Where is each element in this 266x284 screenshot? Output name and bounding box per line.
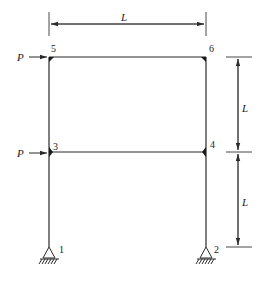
frame-diagram: L L L P P 5 6 3 4 1 2 (0, 0, 266, 284)
support-1 (39, 247, 59, 264)
node-label-1: 1 (59, 244, 64, 255)
span-dimension: L (49, 11, 206, 36)
upper-story-label: L (241, 102, 248, 114)
node-labels: 5 6 3 4 1 2 (51, 43, 219, 255)
rigid-joints (49, 57, 206, 157)
rigid-joint-5-icon (49, 57, 54, 62)
pin-support-1-icon (43, 247, 55, 258)
story-dimensions: L L (226, 57, 252, 247)
loads: P P (16, 51, 47, 159)
span-label: L (120, 11, 127, 23)
rigid-joint-4-icon (202, 147, 206, 157)
node-label-4: 4 (210, 139, 215, 150)
pin-support-2-icon (200, 247, 212, 258)
frame-members (49, 57, 206, 247)
node-label-6: 6 (209, 43, 214, 54)
load-label-upper: P (16, 51, 24, 63)
node-label-5: 5 (51, 43, 56, 54)
node-label-3: 3 (53, 141, 58, 152)
ground-hatch-2-icon (196, 259, 214, 264)
support-2 (196, 247, 216, 264)
ground-hatch-1-icon (39, 259, 57, 264)
load-label-lower: P (16, 147, 24, 159)
lower-story-label: L (241, 196, 248, 208)
node-label-2: 2 (214, 244, 219, 255)
rigid-joint-6-icon (201, 57, 206, 62)
